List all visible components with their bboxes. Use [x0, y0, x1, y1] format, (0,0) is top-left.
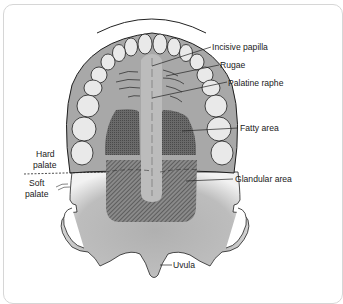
lip-arc	[97, 19, 206, 33]
label-incisive-papilla: Incisive papilla	[212, 42, 268, 52]
label-palatine-raphe: Palatine raphe	[228, 78, 284, 88]
label-soft-palate-line1: Soft	[29, 178, 45, 188]
label-fatty-area: Fatty area	[240, 123, 279, 133]
label-hard-palate-line2: palate	[33, 160, 57, 170]
label-uvula: Uvula	[173, 260, 195, 270]
palatine-raphe-band	[141, 54, 162, 202]
label-glandular-area: Glandular area	[235, 174, 292, 184]
label-hard-palate-line1: Hard	[36, 149, 55, 159]
label-soft-palate-line2: palate	[25, 189, 49, 199]
pterygoid-hamulus	[56, 184, 68, 187]
label-rugae: Rugae	[220, 60, 246, 70]
